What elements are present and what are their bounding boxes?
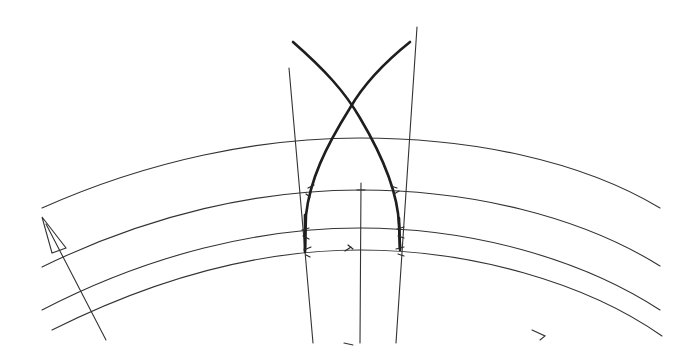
- pointed-arch: [293, 42, 410, 252]
- arc-4: [52, 250, 662, 336]
- arc-3: [42, 228, 660, 310]
- dash-mark: [344, 343, 353, 345]
- arch-construction-diagram: [0, 0, 690, 356]
- arc-1: [42, 138, 660, 208]
- arrow-head-icon: [42, 217, 66, 253]
- right-jamb: [399, 218, 400, 250]
- concentric-arcs: [42, 138, 662, 336]
- guide-lines: [289, 27, 417, 343]
- center-line: [360, 183, 361, 343]
- arch-curve-right-rising: [305, 42, 410, 250]
- arrow-shaft: [46, 224, 106, 340]
- arrow-indicator: [42, 217, 106, 340]
- intersection-ticks: [302, 185, 404, 257]
- left-guide-line: [289, 68, 313, 343]
- right-guide-line: [396, 27, 417, 343]
- arch-curve-left-rising: [293, 42, 400, 248]
- annotation-marks: [344, 330, 545, 345]
- chevron-mark: [532, 330, 545, 340]
